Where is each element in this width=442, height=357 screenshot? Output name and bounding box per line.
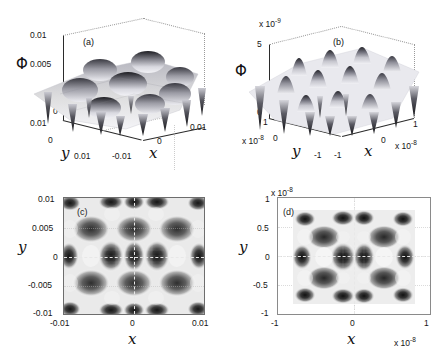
panel-a-x-tick-left: -0.01 [112,152,131,161]
panel-d-x-tick-left: -1 [271,319,279,328]
panel-b-x-tick-left: -1 [334,151,342,160]
panel-b-x-exponent: x 10-8 [395,138,417,151]
panel-c-zero-line-vertical [134,198,135,314]
panel-b-x-tick-mid: 0 [381,136,386,145]
panel-b-x-tick-right: 1 [413,120,418,129]
panel-a-surface [30,32,215,137]
panel-c-y-tick-0: 0.01 [38,195,55,204]
panel-b-x-exponent-mantissa: x 10 [395,141,411,151]
figure-canvas: Φ 0.01 0.005 0 (a) [0,0,442,357]
panel-a-y-axis-label: y [61,146,69,161]
panel-d: x 10-8 y 1 0.5 0 -0.5 -1 [221,180,442,357]
panel-c: y 0.01 0.005 0 -0.005 -0.01 [0,180,221,357]
panel-d-y-tick-0: 1 [265,195,270,204]
panel-a: Φ 0.01 0.005 0 (a) [0,0,221,180]
panel-b-y-tick-mid: 0 [273,134,278,143]
panel-c-x-tick-right: 0.01 [192,319,209,328]
panel-d-y-tick-4: -1 [261,309,269,318]
panel-c-y-axis-label: y [18,240,26,255]
panel-d-x-tick-mid: 0 [350,319,355,328]
panel-c-x-tick-left: -0.01 [50,319,69,328]
panel-d-y-axis-label: y [239,240,247,255]
panel-a-surface-svg [30,32,215,137]
panel-c-y-tick-4: -0.01 [33,309,52,318]
panel-d-x-exponent-power: -8 [410,336,416,343]
panel-d-y-exponent-power: -8 [287,186,293,193]
panel-d-x-exponent-mantissa: x 10 [394,338,410,348]
panel-a-x-axis-label: x [149,146,157,161]
panel-a-y-tick-mid: 0 [48,136,53,145]
panel-c-x-tick-mid: 0 [130,319,135,328]
panel-c-y-tick-3: -0.005 [28,281,52,290]
panel-d-y-tick-2: 0 [265,253,270,262]
panel-c-gridline-upper [64,228,204,229]
panel-c-x-axis-label: x [128,332,136,347]
panel-b-x-axis-label: x [364,144,372,159]
panel-c-gridline-lower [64,286,204,287]
panel-b-y-exponent-power: -8 [258,134,264,141]
panel-c-y-tick-2: 0 [53,253,58,262]
panel-d-plot-area [277,197,431,315]
panel-c-y-tick-1: 0.005 [32,224,53,233]
panel-d-x-axis-label: x [347,332,355,347]
panel-b-surface-svg [243,26,428,136]
panel-a-y-tick-top: 0.01 [30,119,47,128]
panel-d-x-tick-right: 1 [424,319,429,328]
panel-d-label: (d) [283,208,294,217]
panel-b-y-tick-bottom: -1 [314,151,322,160]
panel-d-y-tick-1: 0.5 [257,224,269,233]
panel-a-x-tick-mid: 0 [157,137,162,146]
panel-b-surface [243,26,428,136]
panel-d-zero-line-vertical [354,198,355,314]
panel-d-y-exponent: x 10-8 [271,185,293,198]
panel-d-y-tick-3: -0.5 [253,281,268,290]
panel-d-x-exponent: x 10-8 [394,335,416,348]
panel-b-x-exponent-power: -8 [411,139,417,146]
panel-a-x-tick-right: 0.01 [190,123,207,132]
panel-c-label: (c) [77,208,88,217]
panel-b-y-exponent: x 10-8 [242,133,264,146]
panel-b-y-tick-top: 1 [263,118,268,127]
panel-b: x 10-9 Φ 5 0 (b) [221,0,442,180]
panel-b-y-axis-label: y [292,144,300,159]
panel-b-y-exponent-mantissa: x 10 [242,136,258,146]
panel-a-y-tick-bottom: 0.01 [74,152,91,161]
